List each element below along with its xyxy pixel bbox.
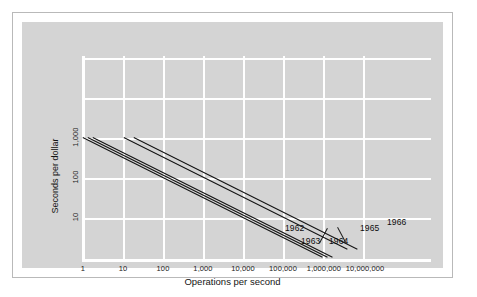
x-tick-label: 10,000: [231, 264, 255, 273]
series-label-1965: 1965: [360, 223, 379, 233]
gridline-horizontal: [83, 58, 431, 60]
x-tick-label: 10: [119, 264, 128, 273]
y-tick-label: 100: [71, 171, 80, 184]
y-axis-title: Seconds per dollar: [50, 138, 60, 213]
series-label-1963: 1963: [301, 236, 320, 246]
x-tick-label: 1,000: [193, 264, 212, 273]
x-axis-title: Operations per second: [13, 276, 452, 287]
x-tick-label: 10,000,000: [346, 264, 385, 273]
figure-frame: 1 10 100 1,000 10,000 100,000 1,000,000 …: [12, 12, 453, 278]
y-tick-label: 1,000: [71, 127, 80, 146]
gridline-horizontal: [83, 98, 431, 100]
x-tick-label: 100,000: [269, 264, 297, 273]
gridline-vertical: [323, 56, 325, 260]
series-label-1964: 1964: [329, 236, 348, 246]
chart-panel: [22, 22, 443, 268]
x-tick-label: 1,000,000: [307, 264, 341, 273]
gridline-horizontal: [83, 178, 431, 180]
y-tick-label: 10: [71, 213, 80, 222]
x-tick-label: 100: [157, 264, 170, 273]
data-line-1964: [93, 137, 333, 258]
gridline-vertical: [243, 56, 245, 260]
gridline-vertical: [203, 56, 205, 260]
data-line-1965: [124, 137, 348, 250]
y-axis-line: [82, 56, 85, 260]
series-label-1966: 1966: [387, 217, 406, 227]
x-axis-line: [82, 259, 431, 262]
series-label-1962: 1962: [285, 223, 304, 233]
x-tick-label: 1: [81, 264, 85, 273]
